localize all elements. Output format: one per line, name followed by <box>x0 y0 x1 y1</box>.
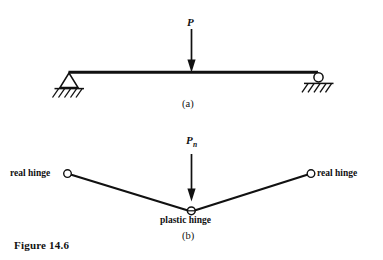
ground-hatch-right <box>302 84 332 93</box>
real-hinge-marker-right <box>307 170 315 178</box>
load-label-p: P <box>187 17 194 28</box>
real-hinge-marker-left <box>64 170 72 178</box>
figure-caption: Figure 14.6 <box>14 240 69 251</box>
panel-label-b: (b) <box>182 231 194 242</box>
load-arrow-p <box>187 29 195 73</box>
figure-14-6: P (a) Pn real hinge real hinge plastic h… <box>0 0 383 260</box>
plastic-hinge-label: plastic hinge <box>160 216 211 226</box>
panel-b-graphics <box>64 154 315 215</box>
ground-hatch-left <box>53 89 83 98</box>
real-hinge-label-left: real hinge <box>10 169 50 179</box>
roller-support-right <box>302 73 334 93</box>
pin-support-left <box>53 73 85 98</box>
mechanism-link-right <box>195 175 309 211</box>
plastic-hinge-marker <box>187 207 195 215</box>
load-arrow-pn <box>187 154 195 202</box>
load-label-pn: Pn <box>186 135 197 146</box>
load-subscript-n: n <box>193 140 197 149</box>
real-hinge-label-right: real hinge <box>317 169 357 179</box>
panel-label-a: (a) <box>182 99 194 110</box>
mechanism-link-left <box>71 175 189 211</box>
panel-a-graphics <box>53 29 334 98</box>
